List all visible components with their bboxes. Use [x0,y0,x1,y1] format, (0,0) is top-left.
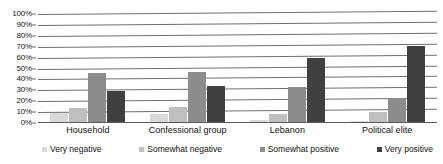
y-axis-tick-label: 50% [17,65,32,73]
y-axis-tick-label: 90% [17,21,32,29]
y-axis-tick-label: 80% [17,32,32,40]
x-axis-category-label: Lebanon [238,125,338,136]
chart-legend: Very negativeSomewhat negativeSomewhat p… [38,144,437,154]
y-axis-tick-label: 20% [17,97,32,105]
bar-group [337,14,437,123]
bar-chart: 100%90%80%70%60%50%40%30%20%10%0% Househ… [0,0,443,164]
legend-swatch-icon [260,147,265,152]
y-axis-tick-mark [32,90,36,91]
bar-group [38,14,138,123]
y-axis-tick-label: 40% [17,75,32,83]
y-axis-tick-mark [32,79,36,80]
y-axis-tick-mark [32,57,36,58]
y-axis-tick-label: 70% [17,43,32,51]
y-axis-tick-label: 10% [17,108,32,116]
legend-item[interactable]: Very positive [377,144,433,154]
legend-label: Somewhat positive [268,144,339,154]
x-axis-category-label: Political elite [337,125,437,136]
legend-item[interactable]: Somewhat negative [139,144,222,154]
x-axis-category-label: Confessional group [138,125,238,136]
legend-label: Very negative [50,144,102,154]
y-axis-tick-mark [32,68,36,69]
bar-group [138,14,238,123]
legend-swatch-icon [139,147,144,152]
y-axis-tick-mark [32,123,36,124]
legend-swatch-icon [377,147,382,152]
plot-area [38,14,437,123]
y-axis: 100%90%80%70%60%50%40%30%20%10%0% [0,14,36,123]
bar [69,108,87,123]
legend-item[interactable]: Very negative [42,144,102,154]
bar [188,72,206,123]
bar [407,46,425,123]
y-axis-tick-mark [32,101,36,102]
y-axis-tick-label: 0% [21,119,32,127]
bar [169,107,187,123]
legend-label: Somewhat negative [147,144,222,154]
y-axis-tick-label: 60% [17,54,32,62]
y-axis-tick-mark [32,46,36,47]
bar [107,91,125,123]
legend-swatch-icon [42,147,47,152]
bar [307,58,325,123]
x-axis-category-label: Household [38,125,138,136]
y-axis-tick-label: 100% [12,10,32,18]
bar [388,98,406,123]
y-axis-tick-mark [32,35,36,36]
x-axis-baseline [38,122,437,123]
legend-label: Very positive [385,144,433,154]
legend-item[interactable]: Somewhat positive [260,144,339,154]
bar [207,86,225,123]
y-axis-tick-mark [32,24,36,25]
bar-groups [38,14,437,123]
y-axis-tick-label: 30% [17,86,32,94]
x-axis-labels: HouseholdConfessional groupLebanonPoliti… [38,125,437,136]
bar-group [238,14,338,123]
y-axis-tick-mark [32,14,36,15]
bar [288,87,306,123]
bar [88,73,106,123]
y-axis-tick-mark [32,112,36,113]
